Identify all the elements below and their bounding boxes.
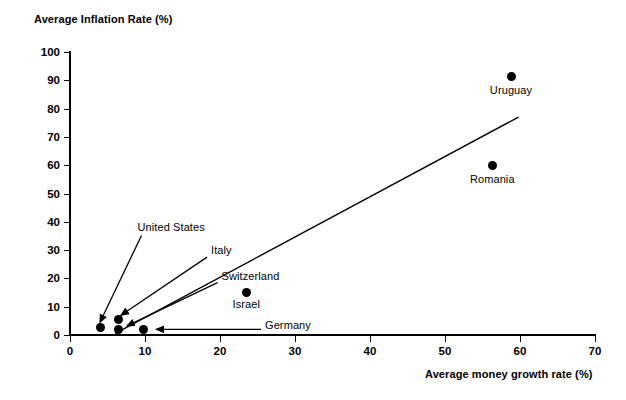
y-tick	[64, 307, 70, 308]
point-label-israel: Israel	[233, 298, 261, 310]
y-tick-label: 60	[47, 159, 60, 171]
y-tick	[64, 52, 70, 53]
y-tick-label: 20	[47, 272, 60, 284]
data-point-israel	[242, 288, 251, 297]
y-tick-label: 90	[47, 74, 60, 86]
data-point-romania	[488, 161, 497, 170]
x-axis-title: Average money growth rate (%)	[425, 368, 593, 380]
data-point-united-states	[96, 323, 105, 332]
y-tick-label: 50	[47, 188, 60, 200]
y-tick-label: 30	[47, 244, 60, 256]
annotation-label-italy: Italy	[211, 244, 232, 256]
x-tick-label: 30	[289, 345, 302, 357]
annotation-label-united-states: United States	[138, 221, 205, 233]
x-tick	[295, 335, 296, 342]
y-tick	[64, 278, 70, 279]
y-tick	[64, 137, 70, 138]
x-tick	[520, 335, 521, 342]
y-tick-label: 80	[47, 103, 60, 115]
y-tick-label: 100	[41, 46, 60, 58]
data-point-italy	[114, 315, 123, 324]
data-point-uruguay	[507, 72, 516, 81]
x-tick	[445, 335, 446, 342]
y-tick	[64, 194, 70, 195]
x-tick-label: 70	[589, 345, 602, 357]
x-tick-label: 0	[67, 345, 73, 357]
x-tick-label: 60	[514, 345, 527, 357]
y-tick-label: 10	[47, 301, 60, 313]
x-tick	[370, 335, 371, 342]
data-point-germany	[139, 325, 148, 334]
y-tick	[64, 109, 70, 110]
x-tick	[145, 335, 146, 342]
y-axis-title: Average Inflation Rate (%)	[34, 13, 173, 25]
scatter-chart: Average Inflation Rate (%) Average money…	[0, 0, 626, 400]
data-point-switzerland	[114, 325, 123, 334]
plot-area: 0102030405060708090100010203040506070Isr…	[70, 52, 595, 335]
y-tick	[64, 250, 70, 251]
x-tick	[70, 335, 71, 342]
y-tick	[64, 222, 70, 223]
y-tick-label: 40	[47, 216, 60, 228]
x-tick	[595, 335, 596, 342]
x-tick-label: 40	[364, 345, 377, 357]
y-tick-label: 70	[47, 131, 60, 143]
x-tick-label: 10	[139, 345, 152, 357]
y-tick	[64, 165, 70, 166]
annotation-label-switzerland: Switzerland	[222, 270, 280, 282]
x-tick-label: 20	[214, 345, 227, 357]
x-tick-label: 50	[439, 345, 452, 357]
point-label-romania: Romania	[470, 173, 515, 185]
y-tick	[64, 80, 70, 81]
point-label-uruguay: Uruguay	[490, 84, 532, 96]
annotation-label-germany: Germany	[265, 319, 311, 331]
y-tick-label: 0	[54, 329, 60, 341]
x-tick	[220, 335, 221, 342]
